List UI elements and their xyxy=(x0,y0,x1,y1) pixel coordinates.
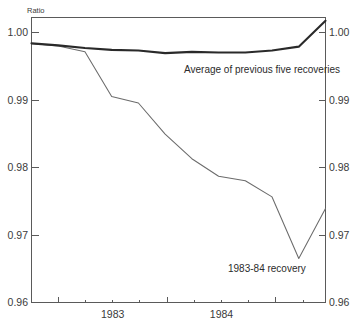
y-label-left-2: 0.98 xyxy=(8,161,29,173)
series-line-average-previous-five-recoveries xyxy=(32,21,326,53)
y-label-right-1: 0.99 xyxy=(329,94,350,106)
unit-label: Ratio xyxy=(27,6,45,15)
x-axis-ticks xyxy=(58,297,303,303)
y-label-left-0: 1.00 xyxy=(8,26,29,38)
y-axis-left-ticks xyxy=(32,33,39,303)
x-label-1983: 1983 xyxy=(101,308,125,320)
y-label-right-4: 0.96 xyxy=(329,296,350,308)
series-line-1983-84-recovery xyxy=(32,43,326,258)
average-series-label: Average of previous five recoveries xyxy=(184,64,340,75)
x-axis-labels: 1983 1984 xyxy=(101,308,233,320)
y-label-right-2: 0.98 xyxy=(329,161,350,173)
y-label-left-4: 0.96 xyxy=(8,296,29,308)
chart-container: Ratio 1.00 0.99 0.98 0.97 0.96 xyxy=(0,0,359,328)
line-chart: Ratio 1.00 0.99 0.98 0.97 0.96 xyxy=(0,0,359,328)
recovery-series-label: 1983-84 recovery xyxy=(228,263,306,274)
y-label-left-1: 0.99 xyxy=(8,94,29,106)
x-label-1984: 1984 xyxy=(210,308,234,320)
y-label-left-3: 0.97 xyxy=(8,229,29,241)
y-axis-left-labels: 1.00 0.99 0.98 0.97 0.96 xyxy=(8,26,29,308)
y-label-right-0: 1.00 xyxy=(329,26,350,38)
y-label-right-3: 0.97 xyxy=(329,229,350,241)
